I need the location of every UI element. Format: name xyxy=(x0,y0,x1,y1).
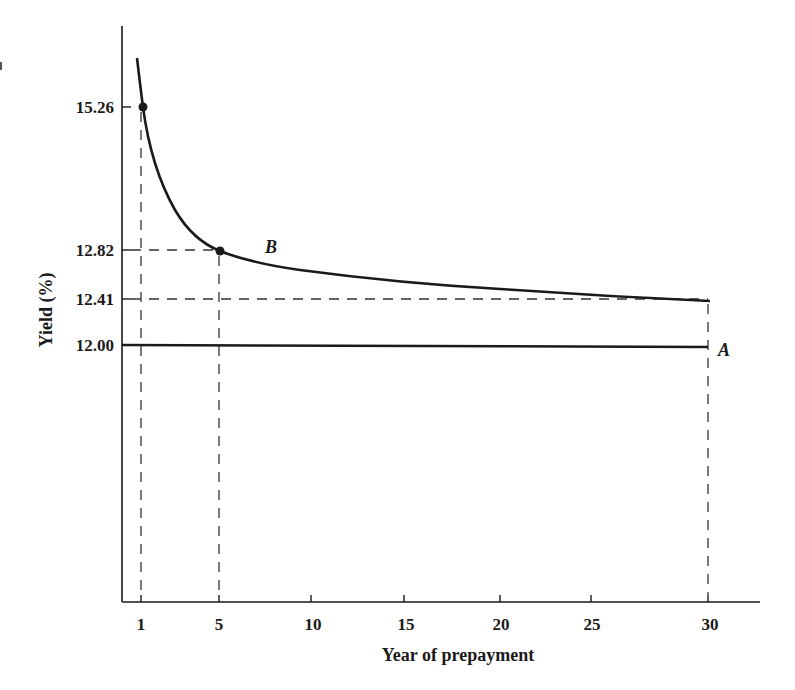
yield-chart: 15.26 12.82 12.41 12.00 1 5 10 15 20 25 … xyxy=(0,0,795,690)
series-a-label: A xyxy=(717,340,730,360)
point-year-1 xyxy=(139,103,148,112)
reference-lines xyxy=(131,112,708,595)
series-a-line xyxy=(122,345,708,347)
y-tick-label: 12.00 xyxy=(76,336,114,355)
x-tick-label: 20 xyxy=(493,615,510,634)
series-b-label: B xyxy=(264,237,277,257)
y-tick-label: 12.82 xyxy=(76,241,114,260)
x-tick-label: 30 xyxy=(702,615,719,634)
y-tick-label: 15.26 xyxy=(76,98,114,117)
series-b-curve xyxy=(137,58,710,301)
x-tick-label: 25 xyxy=(584,615,601,634)
y-axis-title: Yield (%) xyxy=(36,273,57,348)
x-ticks xyxy=(141,595,708,602)
x-tick-label: 15 xyxy=(398,615,415,634)
point-year-5 xyxy=(216,247,225,256)
axes xyxy=(122,26,760,602)
edge-artifact xyxy=(0,62,2,70)
x-tick-label: 1 xyxy=(137,615,146,634)
y-tick-label: 12.41 xyxy=(76,290,114,309)
x-tick-label: 5 xyxy=(215,615,224,634)
x-axis-title: Year of prepayment xyxy=(382,645,534,665)
x-tick-label: 10 xyxy=(305,615,322,634)
y-ticks xyxy=(122,107,131,345)
